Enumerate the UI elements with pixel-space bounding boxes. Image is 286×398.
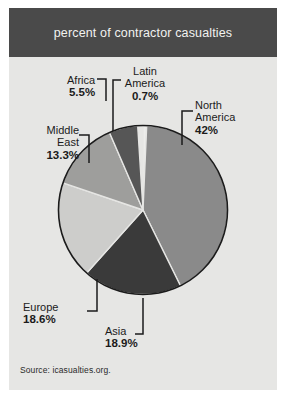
slice-label-latin-america: Latin America 0.7%	[117, 65, 173, 102]
slice-label-africa-name: Africa	[67, 74, 95, 86]
slice-label-europe-name: Europe	[23, 301, 58, 313]
slice-label-latin-america-name-line2: America	[117, 77, 173, 89]
slice-label-asia-name: Asia	[105, 325, 138, 337]
chart-card: percent of contractor casualties	[9, 8, 277, 390]
slice-label-africa-value: 5.5%	[67, 86, 95, 98]
slice-label-north-america-value: 42%	[195, 124, 235, 136]
leader-line-europe	[87, 279, 97, 311]
slice-label-middle-east: Middle East 13.3%	[25, 124, 79, 161]
slice-label-middle-east-value: 13.3%	[25, 149, 79, 161]
chart-title-bar: percent of contractor casualties	[9, 8, 277, 57]
slice-label-middle-east-name-line2: East	[25, 136, 79, 148]
slice-label-north-america: North America 42%	[195, 99, 235, 136]
source-note: Source: icasualties.org.	[20, 365, 111, 375]
chart-title: percent of contractor casualties	[54, 26, 233, 40]
pie-chart-svg	[9, 57, 277, 390]
chart-body: Africa 5.5% Latin America 0.7% North Ame…	[9, 57, 277, 390]
slice-label-latin-america-name-line1: Latin	[117, 65, 173, 77]
slice-label-europe-value: 18.6%	[23, 313, 58, 325]
slice-label-europe: Europe 18.6%	[23, 301, 58, 326]
slice-label-north-america-name-line1: North	[195, 99, 235, 111]
slice-label-north-america-name-line2: America	[195, 111, 235, 123]
slice-label-middle-east-name-line1: Middle	[25, 124, 79, 136]
slice-label-asia-value: 18.9%	[105, 337, 138, 349]
infographic-page: percent of contractor casualties	[0, 0, 286, 398]
pie-chart: Africa 5.5% Latin America 0.7% North Ame…	[9, 57, 277, 390]
slice-label-latin-america-value: 0.7%	[117, 90, 173, 102]
pie-slice-group	[58, 125, 227, 294]
leader-line-africa	[97, 79, 106, 101]
slice-label-asia: Asia 18.9%	[105, 325, 138, 350]
slice-label-africa: Africa 5.5%	[67, 74, 95, 99]
